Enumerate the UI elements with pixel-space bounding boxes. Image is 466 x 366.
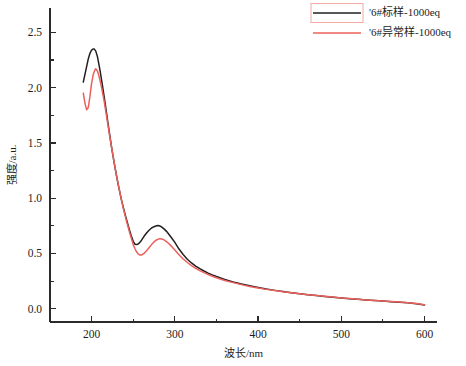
x-tick-label-300: 300 — [166, 328, 184, 340]
y-tick-label-2.0: 2.0 — [28, 82, 43, 94]
y-tick-label-1.5: 1.5 — [28, 137, 43, 149]
y-tick-label-0.0: 0.0 — [28, 303, 43, 315]
x-axis-title: 波长/nm — [224, 347, 264, 359]
y-tick-label-2.5: 2.5 — [28, 26, 43, 38]
x-tick-label-200: 200 — [83, 328, 101, 340]
x-tick-label-400: 400 — [249, 328, 267, 340]
legend: '6#标样-1000eq'6#异常样-1000eq — [311, 4, 452, 39]
y-axis-tick-labels: 0.00.51.01.52.02.5 — [28, 26, 43, 314]
x-tick-label-500: 500 — [333, 328, 351, 340]
series-group — [83, 49, 424, 305]
series-line-0 — [83, 49, 424, 305]
y-tick-label-0.5: 0.5 — [28, 247, 43, 259]
series-line-1 — [83, 69, 424, 305]
y-tick-label-1.0: 1.0 — [28, 192, 43, 204]
x-tick-label-600: 600 — [416, 328, 434, 340]
legend-label-1: '6#异常样-1000eq — [369, 25, 452, 38]
legend-label-0: '6#标样-1000eq — [369, 5, 441, 18]
uv-vis-spectrum-chart: 200300400500600 0.00.51.01.52.02.5 波长/nm… — [0, 0, 466, 366]
x-axis-tick-labels: 200300400500600 — [83, 328, 433, 340]
chart-canvas: 200300400500600 0.00.51.01.52.02.5 波长/nm… — [0, 0, 466, 366]
y-axis-title: 强度/a.u. — [5, 144, 18, 185]
x-axis-major-ticks — [92, 316, 425, 322]
